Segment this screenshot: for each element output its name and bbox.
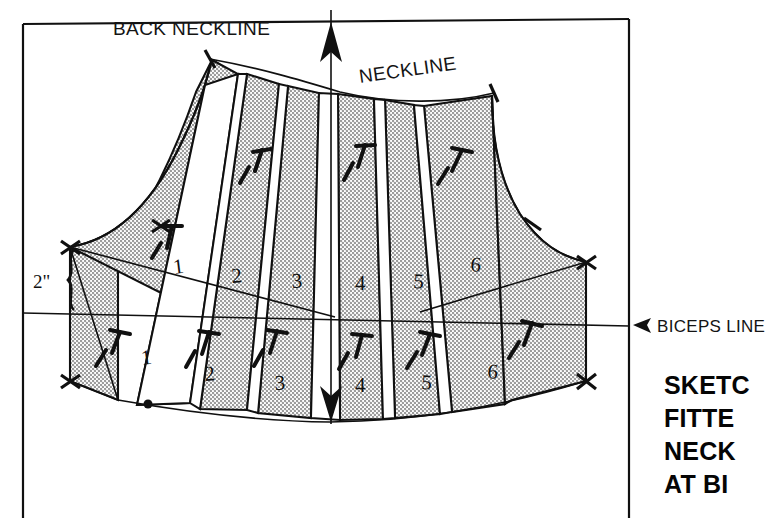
segment-number-lower-5: 5: [421, 370, 433, 395]
pattern-diagram: BACK NECKLINE NECKLINE BICEPS LINE 2" 1 …: [0, 0, 765, 518]
label-measurement-2in: 2": [33, 271, 50, 292]
segment-number-upper-3: 3: [291, 268, 303, 293]
segment-number-upper-5: 5: [413, 269, 425, 294]
segment-number-lower-2: 2: [203, 361, 216, 386]
caption-line-4: AT BI: [664, 470, 728, 498]
segment-number-lower-4: 4: [355, 373, 366, 397]
segment-number-lower-3: 3: [274, 370, 286, 395]
segment-number-upper-4: 4: [355, 271, 366, 295]
caption-line-3: NECK: [664, 437, 736, 465]
segment-number-upper-6: 6: [470, 252, 483, 277]
segment-number-lower-6: 6: [487, 359, 500, 384]
caption-line-2: FITTE: [664, 404, 734, 432]
label-biceps-line: BICEPS LINE: [657, 317, 765, 336]
sleeve-pattern-drawing: BACK NECKLINE NECKLINE BICEPS LINE 2" 1 …: [0, 0, 765, 518]
caption-line-1: SKETC: [664, 371, 750, 399]
segment-number-upper-2: 2: [230, 263, 243, 288]
dot-marker-icon: [144, 400, 153, 409]
label-back-neckline: BACK NECKLINE: [113, 18, 270, 39]
